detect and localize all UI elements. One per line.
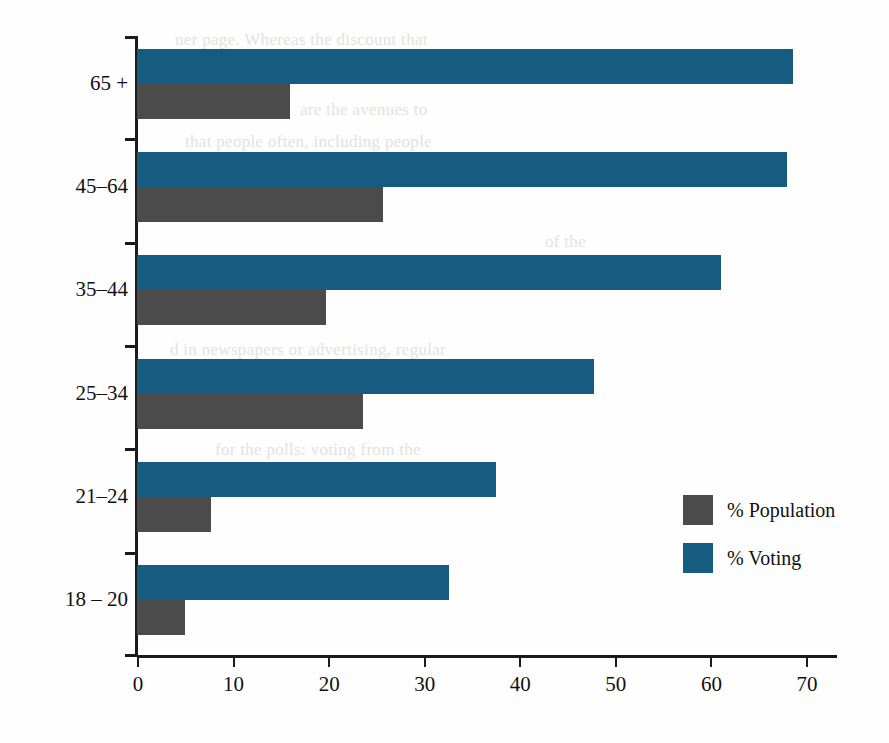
x-axis-tick-label: 50 — [605, 672, 626, 697]
x-axis-tick — [137, 655, 139, 667]
x-axis-tick — [519, 655, 521, 667]
chart-legend: % Population % Voting — [683, 495, 835, 591]
bar-voting — [137, 565, 449, 600]
legend-item-voting: % Voting — [683, 543, 835, 573]
y-axis-tick — [125, 345, 137, 348]
x-axis-tick — [424, 655, 426, 667]
bar-population — [137, 84, 290, 119]
legend-item-population: % Population — [683, 495, 835, 525]
y-axis-category-label: 21–24 — [76, 484, 129, 509]
bar-voting — [137, 255, 721, 290]
y-axis-category-label: 18 – 20 — [65, 587, 128, 612]
x-axis-tick — [328, 655, 330, 667]
bar-population — [137, 497, 211, 532]
legend-label-voting: % Voting — [727, 547, 801, 570]
y-axis-tick — [125, 36, 137, 39]
y-axis-category-label: 25–34 — [76, 381, 129, 406]
chart-page: ner page. Whereas the discount that are … — [0, 0, 889, 743]
x-axis-tick — [710, 655, 712, 667]
bar-voting — [137, 152, 787, 187]
y-axis-tick — [125, 138, 137, 141]
y-axis-tick — [125, 448, 137, 451]
x-axis-tick-label: 10 — [223, 672, 244, 697]
bar-population — [137, 600, 185, 635]
x-axis-tick — [615, 655, 617, 667]
y-axis-category-label: 35–44 — [76, 277, 129, 302]
y-axis-category-labels: 65 +45–6435–4425–3421–2418 – 20 — [0, 36, 128, 656]
y-axis-tick — [125, 242, 137, 245]
y-axis-category-label: 45–64 — [76, 174, 129, 199]
x-axis-tick-label: 70 — [797, 672, 818, 697]
bar-voting — [137, 359, 594, 394]
bar-voting — [137, 462, 496, 497]
bar-population — [137, 290, 326, 325]
x-axis-tick-label: 0 — [133, 672, 144, 697]
x-axis-tick-label: 40 — [510, 672, 531, 697]
bar-population — [137, 187, 383, 222]
x-axis-tick-label: 30 — [414, 672, 435, 697]
x-axis-tick — [233, 655, 235, 667]
y-axis-tick — [125, 552, 137, 555]
y-axis-tick — [125, 654, 137, 657]
bar-voting — [137, 49, 793, 84]
legend-swatch-population-icon — [683, 495, 713, 525]
x-axis-tick-label: 20 — [319, 672, 340, 697]
y-axis-category-label: 65 + — [90, 71, 128, 96]
bar-population — [137, 394, 363, 429]
x-axis-tick-label: 60 — [701, 672, 722, 697]
x-axis-tick — [806, 655, 808, 667]
legend-label-population: % Population — [727, 499, 835, 522]
legend-swatch-voting-icon — [683, 543, 713, 573]
